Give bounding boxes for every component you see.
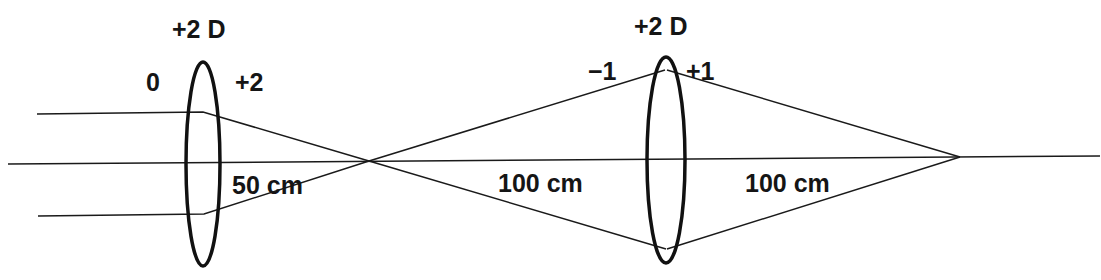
lens-2-vergence-out-label: +1 [686, 57, 715, 85]
optics-ray-diagram: +2 D 0 +2 +2 D −1 +1 50 cm 100 cm 100 cm [0, 0, 1101, 280]
lens-1-power-label: +2 D [172, 15, 226, 43]
lens-1-vergence-out-label: +2 [235, 68, 264, 96]
converging-lens-1 [186, 62, 220, 266]
distance-label-100cm-right: 100 cm [745, 169, 830, 197]
optical-axis [8, 156, 1100, 164]
distance-label-50cm: 50 cm [232, 171, 303, 199]
incident-ray-top [37, 112, 369, 161]
lens-2-vergence-in-label: −1 [588, 57, 617, 85]
distance-label-100cm-left: 100 cm [498, 169, 583, 197]
lens-2-power-label: +2 D [634, 12, 688, 40]
incident-ray-bottom [38, 161, 369, 216]
diverging-ray-top [369, 70, 665, 161]
lens-1-vergence-in-label: 0 [146, 68, 160, 96]
